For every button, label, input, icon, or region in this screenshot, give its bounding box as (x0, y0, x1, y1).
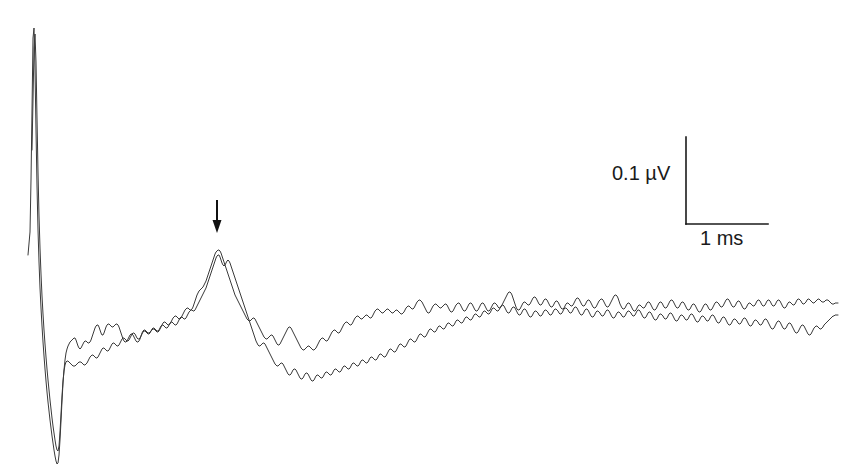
scale-bar (686, 137, 768, 224)
time-scale-label: 1 ms (700, 228, 743, 248)
response-arrow-icon (213, 200, 222, 233)
figure-canvas: 0.1 µV 1 ms (0, 0, 853, 471)
voltage-scale-label: 0.1 µV (612, 163, 670, 183)
arrow-head (213, 220, 222, 233)
